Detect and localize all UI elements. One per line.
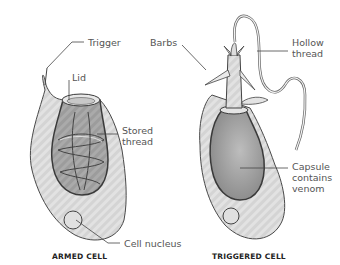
everted-tube	[226, 55, 242, 108]
label-cell-nucleus: Cell nucleus	[124, 238, 182, 249]
armed-capsule	[52, 100, 108, 195]
label-stored-thread-line1: Stored	[122, 125, 153, 136]
triggered-cell	[200, 16, 305, 239]
caption-triggered-cell: TRIGGERED CELL	[212, 252, 286, 261]
label-capsule-line3: venom	[292, 183, 325, 194]
armed-nucleus	[64, 211, 82, 229]
label-capsule-line2: contains	[292, 172, 332, 183]
label-trigger: Trigger	[88, 37, 121, 48]
label-barbs: Barbs	[150, 37, 177, 48]
label-lid: Lid	[72, 72, 86, 83]
label-hollow-thread-line1: Hollow	[292, 37, 324, 48]
caption-armed-cell: ARMED CELL	[52, 252, 107, 261]
armed-cell	[30, 68, 126, 240]
label-stored-thread-line2: thread	[122, 136, 153, 147]
triggered-nucleus	[223, 208, 239, 224]
label-hollow-thread-line2: thread	[292, 48, 323, 59]
label-capsule-line1: Capsule	[292, 161, 330, 172]
